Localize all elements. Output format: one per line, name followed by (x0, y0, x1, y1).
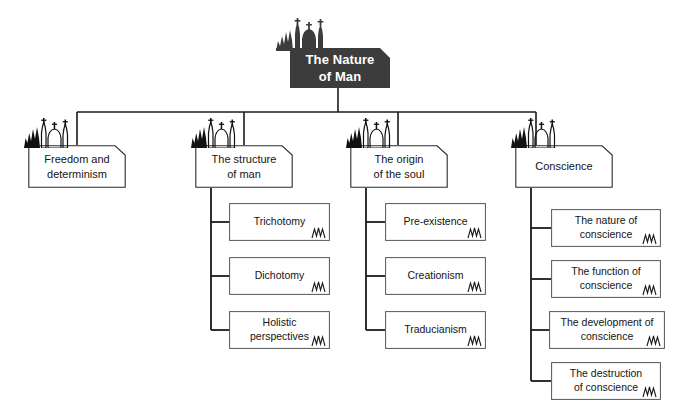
node-leaf-traducianism[interactable]: Traducianism (385, 311, 486, 349)
node-branch-freedom-and-determinism[interactable]: Freedom and determinism (28, 145, 126, 188)
node-leaf-the-destruction-of-conscience[interactable]: The destruction of conscience (551, 362, 661, 400)
node-leaf-label: Pre-existence (397, 215, 473, 229)
node-branch-label: Conscience (529, 159, 598, 174)
node-branch-label: The origin of the soul (368, 152, 431, 181)
node-leaf-label: Holistic perspectives (244, 316, 315, 344)
node-leaf-pre-existence[interactable]: Pre-existence (385, 203, 486, 241)
node-branch-label: Freedom and determinism (38, 152, 115, 181)
node-root-label: The Nature of Man (300, 51, 381, 85)
node-branch-conscience[interactable]: Conscience (515, 145, 613, 188)
node-leaf-the-nature-of-conscience[interactable]: The nature of conscience (551, 209, 661, 247)
node-branch-the-origin-of-the-soul[interactable]: The origin of the soul (350, 145, 448, 188)
diagram-canvas: The Nature of Man Freedom and determinis… (0, 0, 684, 418)
node-root[interactable]: The Nature of Man (290, 48, 390, 88)
node-branch-label: The structure of man (206, 152, 283, 181)
node-leaf-label: The nature of conscience (569, 214, 643, 242)
node-leaf-label: The destruction of conscience (564, 367, 648, 395)
node-leaf-label: The development of conscience (555, 316, 660, 344)
node-leaf-holistic-perspectives[interactable]: Holistic perspectives (229, 311, 330, 349)
node-leaf-the-development-of-conscience[interactable]: The development of conscience (549, 311, 665, 349)
node-leaf-trichotomy[interactable]: Trichotomy (229, 203, 330, 241)
node-leaf-dichotomy[interactable]: Dichotomy (229, 257, 330, 295)
node-leaf-label: Dichotomy (249, 269, 311, 283)
node-leaf-label: Traducianism (398, 323, 473, 337)
node-branch-the-structure-of-man[interactable]: The structure of man (195, 145, 293, 188)
node-leaf-creationism[interactable]: Creationism (385, 257, 486, 295)
node-leaf-label: Creationism (401, 269, 469, 283)
node-leaf-label: Trichotomy (248, 215, 312, 229)
node-leaf-the-function-of-conscience[interactable]: The function of conscience (551, 260, 661, 298)
node-leaf-label: The function of conscience (565, 265, 646, 293)
